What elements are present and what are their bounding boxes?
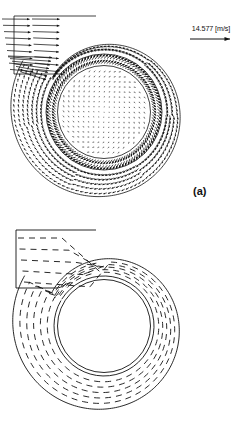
panel-a-vector-field: (a) 14.577 [m/s] [0,0,249,214]
panel-b-streamlines: (b) [0,214,249,424]
velocity-scale-legend: 14.577 [m/s] [176,25,246,43]
right-arrow-icon [176,35,246,43]
inlet-velocity-vectors [2,18,60,80]
impeller-velocity-vectors [62,70,145,153]
legend-label: 14.577 [m/s] [176,25,246,32]
streamline [21,260,167,393]
streamline [18,238,159,382]
figure-container: (a) 14.577 [m/s] [0,0,249,424]
panel-b-svg [0,214,249,424]
streamline-paths [18,238,175,403]
panel-label-a: (a) [193,186,206,197]
